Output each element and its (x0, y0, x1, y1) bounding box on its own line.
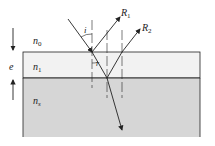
thin-film-diagram: R1 R2 i r n0 n1 ns e (0, 0, 215, 146)
reflected-ray-r2 (122, 29, 140, 52)
reflected-ray-r1 (92, 17, 120, 52)
incident-ray (68, 19, 92, 52)
label-thickness-e: e (9, 61, 14, 72)
diagram-canvas: R1 R2 i r n0 n1 ns e (0, 0, 215, 146)
label-r2: R2 (141, 22, 152, 35)
label-r1: R1 (120, 7, 131, 20)
label-n0: n0 (33, 35, 42, 48)
substrate-layer (23, 78, 200, 137)
film-layer (23, 52, 200, 78)
label-angle-i: i (84, 25, 87, 35)
